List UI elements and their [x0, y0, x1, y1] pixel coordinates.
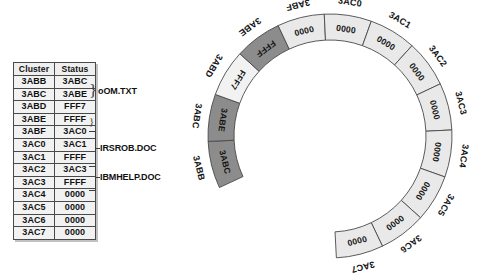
column-header-cluster: Cluster [14, 63, 55, 76]
file-label-ibmhelp-doc: IBMHELP.DOC [100, 172, 161, 182]
segment-cluster-3ac2: 3AC2 [427, 43, 449, 68]
segment-cluster-3abc: 3ABC [190, 102, 204, 129]
segment-status-3abe: FFFF [254, 39, 277, 60]
segment-status-3abf: 0000 [293, 24, 315, 38]
segment-cluster-3ac5: 3AC5 [435, 192, 456, 218]
table-row: 3AC03AC1 [14, 138, 96, 151]
table-row: 3AC70000 [14, 227, 96, 240]
cell-cluster: 3AC1 [14, 151, 55, 164]
cell-cluster: 3AC4 [14, 189, 55, 202]
segment-status-3ac1: 0000 [374, 34, 396, 53]
cell-cluster: 3AC7 [14, 227, 55, 240]
segment-cluster-3ac4: 3AC4 [457, 143, 470, 168]
cell-cluster: 3AC2 [14, 164, 55, 177]
table-row: 3ABB3ABC [14, 76, 96, 89]
segment-cluster-3abe: 3ABE [237, 16, 263, 39]
segment-cluster-3ac0: 3AC0 [338, 0, 363, 9]
segment-status-3ac5: 0000 [413, 180, 432, 202]
cell-cluster: 3AC6 [14, 214, 55, 227]
cell-status: 0000 [55, 214, 96, 227]
brace-oom-txt: } [89, 82, 97, 99]
table-row: 3AC40000 [14, 189, 96, 202]
cell-cluster: 3ABB [14, 76, 55, 89]
segment-status-3ac6: 0000 [384, 213, 406, 233]
cell-status: FFF7 [55, 101, 96, 114]
file-label-oom-txt: oOM.TXT [98, 86, 137, 96]
cell-status: 0000 [55, 227, 96, 240]
cell-cluster: 3ABC [14, 88, 55, 101]
segment-status-3ac2: 0000 [407, 61, 427, 83]
cell-cluster: 3ABF [14, 126, 55, 139]
cell-cluster: 3ABE [14, 113, 55, 126]
table-row: 3ABC3ABE [14, 88, 96, 101]
table-row: 3ABDFFF7 [14, 101, 96, 114]
file-label-irsrob-doc: IRSROB.DOC [100, 143, 157, 153]
cell-status: 0000 [55, 201, 96, 214]
table-row: 3AC3FFFF [14, 176, 96, 189]
table-row: 3AC1FFFF [14, 151, 96, 164]
table-row: 3ABEFFFF [14, 113, 96, 126]
figure-caption [0, 263, 492, 271]
segment-status-3ac0: 0000 [335, 23, 356, 36]
cell-cluster: 3AC5 [14, 201, 55, 214]
table-row: 3ABF3AC0 [14, 126, 96, 139]
segment-status-3ac4: 0000 [430, 141, 443, 162]
cell-cluster: 3AC3 [14, 176, 55, 189]
segment-cluster-3ac3: 3AC3 [453, 90, 468, 116]
segment-cluster-3abf: 3ABF [285, 0, 311, 13]
segment-cluster-3ac1: 3AC1 [387, 10, 413, 31]
segment-status-3abb: 3ABC [217, 149, 232, 175]
bracket-ibmhelp-doc [89, 166, 96, 191]
column-header-status: Status [55, 63, 96, 76]
segment-status-3ac3: 0000 [427, 99, 442, 121]
segment-cluster-3ac6: 3AC6 [398, 233, 423, 255]
table-row: 3AC23AC3 [14, 164, 96, 177]
bracket-irsrob-doc [89, 131, 96, 167]
table-header-row: Cluster Status [14, 63, 96, 76]
table-row: 3AC60000 [14, 214, 96, 227]
table-row: 3AC50000 [14, 201, 96, 214]
brace-3abe: } [89, 116, 94, 127]
cell-cluster: 3ABD [14, 101, 55, 114]
segment-cluster-3abd: 3ABD [204, 53, 226, 80]
ring-segment-group [208, 14, 452, 258]
fat-table: Cluster Status 3ABB3ABC3ABC3ABE3ABDFFF73… [13, 62, 96, 240]
segment-cluster-3abb: 3ABB [191, 155, 207, 182]
cell-cluster: 3AC0 [14, 138, 55, 151]
segment-status-3ac7: 0000 [346, 233, 368, 248]
segment-status-3abd: FFF7 [228, 68, 248, 91]
segment-status-3abc: 3ABE [216, 107, 229, 132]
